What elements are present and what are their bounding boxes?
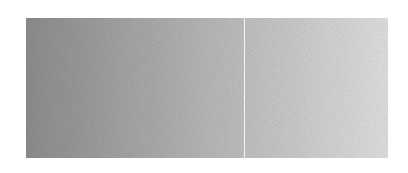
vertical-divider-line (244, 18, 245, 158)
canvas (0, 0, 408, 173)
noise-texture (26, 18, 388, 158)
noisy-gradient-panel (26, 18, 388, 158)
